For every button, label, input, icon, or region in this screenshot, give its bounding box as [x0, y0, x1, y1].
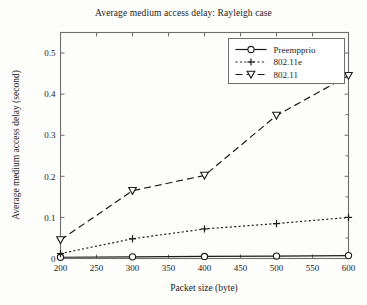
legend-label: 802.11e	[274, 57, 302, 67]
y-tick-label: 0.1	[44, 213, 55, 223]
x-axis-label: Packet size (byte)	[170, 283, 238, 294]
x-axis-tick-labels: 200250300350400450500550600	[54, 263, 356, 273]
x-tick-label: 500	[270, 263, 284, 273]
y-axis-label: Average medium access delay (second)	[11, 70, 22, 220]
y-tick-label: 0.4	[44, 89, 56, 99]
y-tick-label: 0.3	[44, 130, 56, 140]
x-tick-label: 250	[90, 263, 104, 273]
x-tick-label: 200	[54, 263, 68, 273]
series-line	[61, 76, 349, 240]
y-tick-label: 0.2	[44, 172, 55, 182]
x-tick-label: 550	[306, 263, 320, 273]
series-preempprio	[57, 253, 351, 261]
x-tick-label: 300	[126, 263, 140, 273]
chart-plot-area: 200250300350400450500550600 00.10.20.30.…	[0, 0, 367, 305]
y-tick-label: 0.5	[44, 48, 56, 58]
x-tick-label: 450	[234, 263, 248, 273]
chart-legend: Preempprio802.11e802.11	[229, 39, 345, 84]
x-tick-label: 350	[162, 263, 176, 273]
y-axis-tick-labels: 00.10.20.30.40.5	[44, 48, 56, 263]
y-tick-label: 0	[51, 254, 56, 264]
data-series-group	[57, 72, 353, 260]
chart-page: Average medium access delay: Rayleigh ca…	[0, 0, 367, 305]
series-line	[61, 217, 349, 253]
series-802-11e	[57, 214, 352, 257]
x-tick-label: 400	[198, 263, 212, 273]
legend-label: Preempprio	[274, 45, 316, 55]
series-802-11	[57, 72, 353, 243]
legend-label: 802.11	[274, 70, 298, 80]
x-tick-label: 600	[342, 263, 356, 273]
